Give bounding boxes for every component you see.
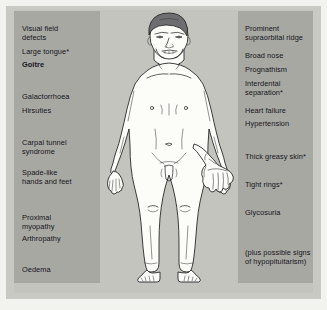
- finding-interdental-separation: Interdental separation*: [245, 80, 315, 97]
- finding-hirsuties: Hirsuties: [22, 107, 98, 116]
- finding-hypertension: Hypertension: [245, 120, 315, 129]
- finding-prominent-supraorbital-ridge: Prominent supraorbital ridge: [245, 25, 315, 42]
- finding-prognathism: Prognathism: [245, 66, 315, 75]
- finding-heart-failure: Heart failure: [245, 107, 315, 116]
- finding-proximal-myopathy: Proximal myopathy: [22, 214, 98, 231]
- finding-galactorrhoea: Galactorrhoea: [22, 93, 98, 102]
- acromegaly-clinical-diagram: Visual field defects Large tongue* Goitr…: [0, 0, 327, 310]
- finding-arthropathy: Arthropathy: [22, 235, 98, 244]
- finding-tight-rings: Tight rings*: [245, 181, 315, 190]
- finding-oedema: Oedema: [22, 266, 98, 275]
- finding-large-tongue: Large tongue*: [22, 48, 98, 57]
- finding-hypopituitarism-note: (plus possible signs of hypopituitarism): [245, 249, 315, 266]
- finding-broad-nose: Broad nose: [245, 52, 315, 61]
- finding-glycosuria: Glycosuria: [245, 209, 315, 218]
- right-findings-panel: Prominent supraorbital ridge Broad nose …: [238, 11, 313, 283]
- finding-thick-greasy-skin: Thick greasy skin*: [245, 153, 315, 162]
- finding-spade-like-hands-and-feet: Spade-like hands and feet: [22, 169, 98, 186]
- finding-goitre: Goitre: [22, 61, 98, 70]
- finding-visual-field-defects: Visual field defects: [22, 25, 98, 42]
- finding-carpal-tunnel-syndrome: Carpal tunnel syndrome: [22, 139, 98, 156]
- figure-stage: .sk { fill:#fcfcf8; stroke:#1d1d20; stro…: [100, 11, 238, 283]
- left-findings-panel: Visual field defects Large tongue* Goitr…: [14, 11, 100, 283]
- spade-like-hand-detail: .hsk { fill:#fcfcf8; stroke:#1d1d20; str…: [192, 143, 238, 197]
